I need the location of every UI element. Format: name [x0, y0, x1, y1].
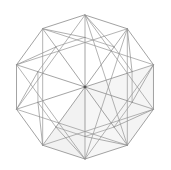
decagon-figure: Decagon rhombic dissection	[0, 0, 171, 170]
center-point	[84, 86, 87, 89]
